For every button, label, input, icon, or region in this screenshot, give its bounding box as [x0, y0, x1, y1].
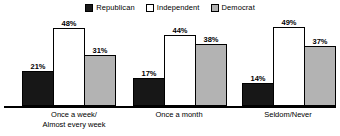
bar-value-republican-0: 21%	[30, 62, 45, 71]
category-label-1: Once a month	[129, 110, 229, 120]
white-square-icon	[146, 4, 154, 12]
bar-group-0-bars: 21% 48% 31%	[22, 16, 116, 106]
legend-item-republican: Republican	[85, 4, 135, 12]
gray-square-icon	[211, 4, 219, 12]
legend-label-independent: Independent	[157, 4, 200, 12]
legend-label-democrat: Democrat	[222, 4, 255, 12]
grouped-bar-chart: Republican Independent Democrat 21% 48% …	[0, 0, 340, 136]
legend-item-democrat: Democrat	[211, 4, 255, 12]
bar-republican-2: 14%	[242, 83, 274, 106]
category-label-0: Once a week/ Almost every week	[14, 110, 134, 129]
bar-group-2-bars: 14% 49% 37%	[242, 16, 336, 106]
bar-value-republican-1: 17%	[141, 69, 156, 78]
bar-value-democrat-0: 31%	[92, 46, 107, 55]
category-label-2: Seldom/Never	[238, 110, 338, 120]
bar-value-democrat-1: 38%	[203, 35, 218, 44]
x-axis-line	[4, 106, 336, 108]
plot-area: 21% 48% 31% 17% 44% 38%	[0, 16, 340, 108]
black-square-icon	[85, 4, 93, 12]
bar-value-independent-0: 48%	[61, 19, 76, 28]
bar-independent-2: 49%	[273, 27, 305, 106]
bar-independent-1: 44%	[164, 35, 196, 106]
bar-value-republican-2: 14%	[250, 74, 265, 83]
bar-independent-0: 48%	[53, 28, 85, 106]
bar-group-1-bars: 17% 44% 38%	[133, 16, 227, 106]
bar-democrat-2: 37%	[304, 46, 336, 106]
bar-republican-1: 17%	[133, 78, 165, 106]
bar-republican-0: 21%	[22, 71, 54, 106]
chart-legend: Republican Independent Democrat	[0, 2, 340, 13]
bar-democrat-1: 38%	[195, 44, 227, 106]
legend-label-republican: Republican	[96, 4, 135, 12]
bar-value-independent-2: 49%	[281, 18, 296, 27]
bar-value-independent-1: 44%	[172, 26, 187, 35]
bar-value-democrat-2: 37%	[312, 37, 327, 46]
legend-item-independent: Independent	[146, 4, 200, 12]
bar-democrat-0: 31%	[84, 55, 116, 106]
